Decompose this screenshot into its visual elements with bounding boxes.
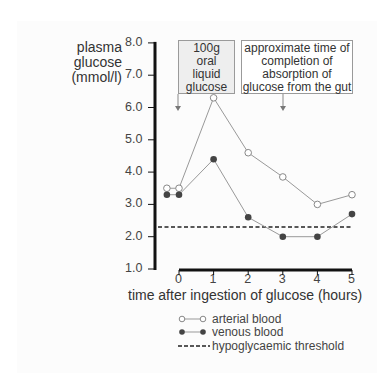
venous-point [314, 233, 321, 240]
legend-filled-circle-icon [179, 329, 185, 335]
arterial-line [167, 98, 352, 205]
legend-arterial-label: arterial blood [212, 312, 281, 326]
venous-point [245, 214, 252, 221]
venous-line [167, 159, 352, 237]
arterial-point [210, 95, 217, 102]
venous-point [164, 191, 171, 198]
arrow-down-icon [175, 106, 181, 111]
arterial-point [349, 191, 356, 198]
venous-point [176, 191, 183, 198]
arterial-point [176, 185, 183, 192]
arterial-point [164, 185, 171, 192]
venous-point [349, 211, 356, 218]
x-axis-label: time after ingestion of glucose (hours) [128, 287, 362, 303]
venous-point [280, 233, 287, 240]
legend-threshold-label: hypoglycaemic threshold [212, 339, 344, 353]
legend-open-circle-icon [179, 316, 185, 322]
venous-point [210, 156, 217, 163]
legend-open-circle-icon [200, 316, 206, 322]
chart-plot [0, 0, 384, 389]
arterial-point [314, 201, 321, 208]
arrow-down-icon [280, 106, 286, 111]
arterial-point [280, 174, 287, 181]
legend-filled-circle-icon [200, 329, 206, 335]
legend-venous-label: venous blood [212, 325, 283, 339]
arterial-point [245, 149, 252, 156]
